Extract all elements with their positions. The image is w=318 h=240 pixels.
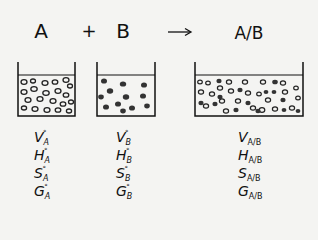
property-g-a: GA°: [34, 184, 48, 201]
property-h-ab: HA/B: [238, 148, 262, 165]
mixture-label: A/B: [234, 25, 263, 42]
beaker-b: [97, 62, 155, 116]
property-v-b: VB°: [116, 130, 129, 147]
particles-a: [21, 78, 74, 113]
component-a-label: A: [34, 21, 48, 41]
reaction-arrow-icon: [168, 29, 191, 36]
property-v-a: VA°: [34, 130, 47, 147]
property-s-ab: SA/B: [238, 166, 261, 183]
component-b-label: B: [116, 21, 130, 41]
property-h-b: HB°: [116, 148, 130, 165]
particles-b: [98, 78, 150, 113]
beaker-ab: [195, 62, 303, 116]
property-g-b: GB°: [116, 184, 130, 201]
plus-operator: +: [81, 22, 96, 40]
property-s-b: SB°: [116, 166, 128, 183]
beaker-a: [18, 62, 75, 116]
property-v-ab: VA/B: [238, 130, 261, 147]
property-h-a: HA°: [34, 148, 48, 165]
property-g-ab: GA/B: [238, 184, 263, 201]
property-s-a: SA°: [34, 166, 46, 183]
